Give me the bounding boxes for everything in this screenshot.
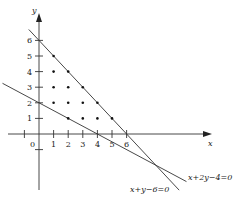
constraint-line	[3, 83, 187, 181]
coordinate-plane: x y 0 123456123456 x+y−6=0x+2y−4=0	[0, 0, 235, 205]
x-tick-label: 4	[95, 140, 100, 149]
lattice-point	[82, 102, 85, 105]
lattice-point	[67, 70, 70, 73]
origin-label: 0	[30, 140, 35, 149]
lattice-point	[111, 117, 114, 120]
ticks: 123456123456	[24, 36, 129, 149]
lattice-point	[67, 86, 70, 89]
y-tick-label: 3	[27, 83, 32, 92]
lattice-point	[52, 102, 55, 105]
x-tick-label: 2	[66, 140, 71, 149]
lattice-point	[67, 102, 70, 105]
lattice-point	[82, 117, 85, 120]
lattice-point	[52, 86, 55, 89]
x-tick-label: 6	[124, 140, 129, 149]
constraint-line-label: x+y−6=0	[130, 185, 169, 194]
constraint-line-label: x+2y−4=0	[188, 173, 232, 182]
y-tick-label: 1	[27, 114, 32, 123]
y-tick-label: 5	[27, 52, 32, 61]
x-tick-label: 1	[51, 140, 56, 149]
x-axis-label: x	[208, 139, 213, 148]
lattice-point	[52, 55, 55, 58]
y-tick-label: 4	[27, 68, 32, 77]
y-tick-label: 6	[27, 36, 32, 45]
lattice-point	[82, 86, 85, 89]
y-axis-arrowhead	[36, 13, 42, 22]
lattice-point	[67, 117, 70, 120]
lattice-point	[96, 117, 99, 120]
x-tick-label: 3	[80, 140, 85, 149]
constraint-lines: x+y−6=0x+2y−4=0	[3, 29, 233, 194]
lattice-point	[52, 70, 55, 73]
y-axis-label: y	[31, 6, 37, 15]
axes: x y 0	[8, 6, 213, 190]
x-axis-arrowhead	[203, 131, 212, 137]
lattice-point	[96, 102, 99, 105]
y-tick-label: 2	[27, 99, 32, 108]
